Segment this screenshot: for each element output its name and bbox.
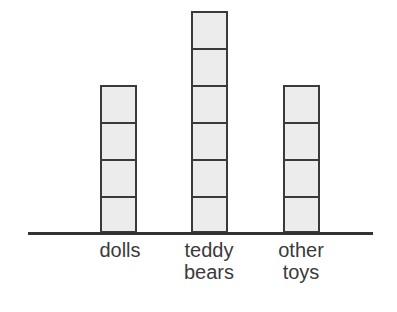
unit-block bbox=[283, 85, 320, 122]
label-other-toys: other toys bbox=[270, 239, 332, 283]
bar-dolls bbox=[100, 85, 137, 233]
unit-block bbox=[191, 196, 228, 233]
label-dolls: dolls bbox=[92, 239, 148, 261]
x-axis-baseline bbox=[28, 232, 373, 235]
unit-block bbox=[191, 85, 228, 122]
unit-block bbox=[191, 122, 228, 159]
unit-block bbox=[100, 85, 137, 122]
unit-block bbox=[100, 159, 137, 196]
unit-block bbox=[191, 48, 228, 85]
unit-block bbox=[283, 196, 320, 233]
label-teddy-bears: teddy bears bbox=[176, 239, 242, 283]
bar-other-toys bbox=[283, 85, 320, 233]
pictograph-chart: dolls teddy bears other toys bbox=[0, 0, 397, 312]
bar-teddy-bears bbox=[191, 11, 228, 233]
unit-block bbox=[283, 159, 320, 196]
unit-block bbox=[100, 122, 137, 159]
unit-block bbox=[191, 11, 228, 48]
unit-block bbox=[100, 196, 137, 233]
unit-block bbox=[283, 122, 320, 159]
unit-block bbox=[191, 159, 228, 196]
